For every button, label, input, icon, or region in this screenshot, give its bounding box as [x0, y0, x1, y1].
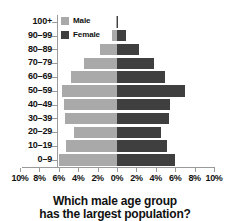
- bar-group: [0, 98, 230, 112]
- x-axis-label: 4%: [72, 173, 84, 183]
- legend-swatch-male-icon: [61, 17, 69, 25]
- chart-row: 40–49: [0, 98, 230, 112]
- x-axis-tick: [214, 168, 215, 172]
- bar-group: [0, 70, 230, 84]
- x-axis-tick: [20, 168, 21, 172]
- x-axis-tick: [98, 168, 99, 172]
- chart-row: 0–9: [0, 153, 230, 167]
- x-axis-label: 10%: [11, 173, 28, 183]
- bar-male: [65, 113, 117, 124]
- chart-row: 70–79: [0, 56, 230, 70]
- bar-group: [0, 125, 230, 139]
- x-axis-tick: [78, 168, 79, 172]
- x-axis-tick: [39, 168, 40, 172]
- bar-group: [0, 43, 230, 57]
- bar-female: [117, 71, 165, 82]
- bar-female: [117, 140, 167, 151]
- bar-female: [117, 44, 139, 55]
- x-axis-tick: [59, 168, 60, 172]
- x-axis-tick: [136, 168, 137, 172]
- question-line-2: has the largest population?: [0, 208, 230, 221]
- x-axis-label: 2%: [91, 173, 103, 183]
- chart-row: 20–29: [0, 125, 230, 139]
- legend-label-male: Male: [73, 15, 90, 27]
- x-axis-label: 0%: [111, 173, 123, 183]
- chart-row: 60–69: [0, 70, 230, 84]
- x-axis: 10%8%6%4%2%0%2%4%6%8%10%: [0, 168, 230, 188]
- bar-group: [0, 153, 230, 167]
- x-axis-label: 2%: [130, 173, 142, 183]
- x-axis-label: 6%: [169, 173, 181, 183]
- bar-female: [117, 154, 175, 165]
- legend-item-male: Male: [61, 15, 131, 27]
- x-axis-label: 8%: [188, 173, 200, 183]
- x-axis-tick: [117, 168, 118, 172]
- bar-male: [74, 127, 117, 138]
- bar-male: [64, 99, 117, 110]
- bar-male: [71, 71, 117, 82]
- population-pyramid-figure: groups in a population, based on gender.…: [0, 0, 230, 221]
- bar-group: [0, 112, 230, 126]
- bar-male: [62, 85, 117, 96]
- legend: Male Female: [61, 15, 131, 43]
- bar-male: [84, 58, 117, 69]
- chart-row: 30–39: [0, 112, 230, 126]
- bar-group: [0, 139, 230, 153]
- bar-female: [117, 58, 154, 69]
- x-axis-label: 6%: [53, 173, 65, 183]
- bar-female: [117, 99, 170, 110]
- chart-row: 80–89: [0, 43, 230, 57]
- x-axis-tick: [156, 168, 157, 172]
- bar-group: [0, 56, 230, 70]
- x-axis-tick: [175, 168, 176, 172]
- legend-item-female: Female: [61, 29, 131, 41]
- bar-female: [117, 85, 185, 96]
- bar-female: [117, 113, 169, 124]
- legend-label-female: Female: [73, 29, 100, 41]
- bar-male: [66, 140, 117, 151]
- question-text: Which male age group has the largest pop…: [0, 195, 230, 221]
- chart-row: 50–59: [0, 84, 230, 98]
- x-axis-tick: [195, 168, 196, 172]
- chart-row: 10–19: [0, 139, 230, 153]
- bar-male: [59, 154, 117, 165]
- legend-swatch-female-icon: [61, 31, 69, 39]
- bar-group: [0, 84, 230, 98]
- x-axis-label: 8%: [33, 173, 45, 183]
- x-axis-label: 4%: [150, 173, 162, 183]
- x-axis-label: 10%: [205, 173, 222, 183]
- bar-female: [117, 127, 161, 138]
- bar-male: [100, 44, 117, 55]
